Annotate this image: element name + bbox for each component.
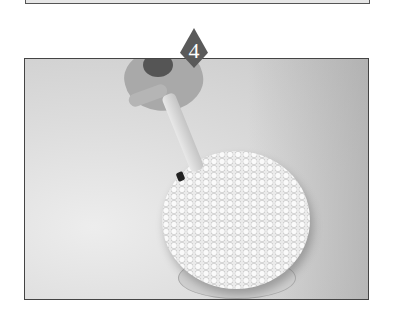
frosted-cake [162, 151, 310, 289]
step-badge: 4 [180, 28, 208, 68]
step-number: 4 [180, 40, 208, 62]
previous-step-photo-frame [25, 0, 370, 4]
step-photo [24, 58, 369, 300]
